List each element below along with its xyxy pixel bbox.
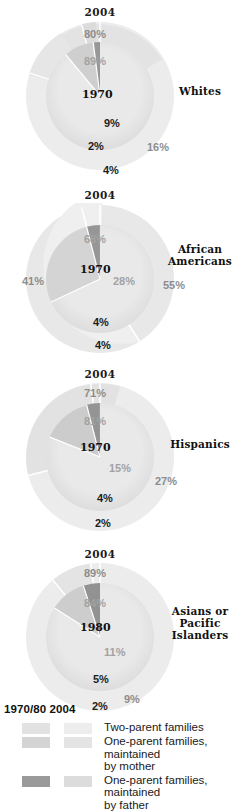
group-label-line: Islanders: [159, 629, 241, 641]
year-label-center: 1980: [80, 621, 111, 634]
donut-chart-african-americans: [24, 203, 176, 355]
legend-item-mother: One-parent families, maintained by mothe…: [0, 735, 247, 773]
legend-swatch-new-two-parent: [64, 723, 92, 734]
pct-inner-father: 4%: [97, 492, 113, 504]
chart-block-asians-pacific-islanders: 2004: [0, 545, 247, 705]
group-label-line: Pacific: [159, 617, 241, 629]
pct-outer-father: 2%: [92, 700, 108, 712]
legend-swatch-new-mother: [64, 737, 92, 748]
legend-swatch-old-father: [22, 776, 50, 787]
donut-svg: [24, 381, 176, 533]
pct-inner-father: 2%: [88, 140, 104, 152]
legend-item-two-parent: Two-parent families: [0, 721, 247, 734]
chart-block-african-americans: 2004: [0, 185, 247, 365]
legend-label-line1: Two-parent families: [104, 721, 204, 733]
legend-swatch-old-mother: [22, 737, 50, 748]
chart-block-whites: 2004: [0, 0, 247, 185]
group-label-line: African: [159, 243, 241, 255]
legend-swatch-new-father: [64, 776, 92, 787]
pct-inner-mother: 28%: [113, 275, 135, 287]
group-label-line: Hispanics: [159, 438, 241, 450]
pct-outer-father: 2%: [95, 517, 111, 529]
pct-outer-mother: 55%: [163, 279, 185, 291]
pct-outer-mother: 16%: [147, 141, 169, 153]
pct-outer-two-parent: 80%: [84, 28, 106, 40]
year-label-top: 2004: [0, 6, 200, 18]
year-label-top: 2004: [0, 189, 200, 201]
pct-inner-mother: 9%: [104, 117, 120, 129]
legend-label-line1: One-parent families, maintained: [104, 735, 208, 760]
donut-chart-hispanics: [24, 381, 176, 533]
pct-outer-two-parent: 89%: [84, 567, 106, 579]
pct-inner-two-parent: 81%: [84, 415, 106, 427]
group-label-hispanics: Hispanics: [159, 438, 241, 450]
legend-label: One-parent families, maintained by fathe…: [104, 774, 247, 812]
group-label-line: Asians or: [159, 605, 241, 617]
legend-label: One-parent families, maintained by mothe…: [104, 735, 247, 773]
year-label-top: 2004: [0, 368, 200, 380]
legend-item-father: One-parent families, maintained by fathe…: [0, 774, 247, 812]
pct-inner-father: 4%: [93, 316, 109, 328]
pct-inner-mother: 15%: [109, 462, 131, 474]
legend-label-line1: One-parent families, maintained: [104, 774, 208, 799]
group-label-line: Whites: [159, 85, 241, 97]
pct-inner-mother: 11%: [104, 646, 125, 658]
year-label-top: 2004: [0, 548, 200, 560]
legend-rows: Two-parent families One-parent families,…: [0, 721, 247, 812]
legend-swatch-old-two-parent: [22, 723, 50, 734]
pct-inner-two-parent: 68%: [84, 233, 106, 245]
legend-label-line2: by mother: [104, 760, 155, 772]
donut-svg: [24, 561, 176, 713]
pct-outer-mother: 9%: [124, 693, 140, 705]
pct-outer-father: 4%: [103, 164, 119, 176]
pct-outer-mother: 27%: [155, 475, 177, 487]
pct-outer-two-parent: 71%: [84, 387, 106, 399]
chart-block-hispanics: 2004: [0, 365, 247, 545]
year-label-center: 1970: [82, 88, 113, 101]
legend-label: Two-parent families: [104, 721, 204, 734]
donut-chart-asians-pacific-islanders: [24, 561, 176, 713]
year-label-center: 1970: [80, 263, 111, 276]
group-label-african-americans: African Americans: [159, 243, 241, 267]
year-label-center: 1970: [80, 441, 111, 454]
group-label-asians-pacific-islanders: Asians or Pacific Islanders: [159, 605, 241, 641]
pct-inner-two-parent: 89%: [84, 55, 106, 67]
donut-svg: [24, 203, 176, 355]
group-label-whites: Whites: [159, 85, 241, 97]
pct-inner-father: 5%: [93, 673, 109, 685]
legend-header: 1970/80 2004: [4, 703, 76, 715]
group-label-line: Americans: [159, 255, 241, 267]
legend-label-line2: by father: [104, 799, 149, 811]
pct-outer-father: 4%: [95, 339, 111, 351]
pct-outer-two-parent-left: 41%: [22, 275, 44, 287]
pct-inner-two-parent: 84%: [84, 597, 106, 609]
